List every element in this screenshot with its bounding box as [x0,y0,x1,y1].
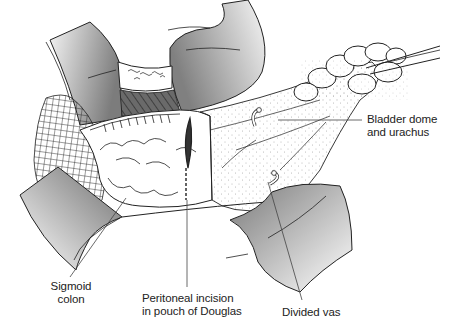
label-bladder-dome: Bladder dome and urachus [367,113,437,139]
label-incision-line2: in pouch of Douglas [142,305,242,318]
label-bladder-line2: and urachus [367,126,437,139]
surgical-illustration: Bladder dome and urachus Sigmoid colon P… [0,0,454,330]
label-peritoneal-incision: Peritoneal incision in pouch of Douglas [142,292,242,318]
label-sigmoid-line2: colon [44,293,98,306]
label-bladder-line1: Bladder dome [367,113,437,126]
label-sigmoid-line1: Sigmoid [44,280,98,293]
label-incision-line1: Peritoneal incision [142,292,242,305]
label-sigmoid-colon: Sigmoid colon [44,280,98,306]
label-divided-vas: Divided vas [282,306,340,319]
label-vas-line1: Divided vas [282,306,340,319]
